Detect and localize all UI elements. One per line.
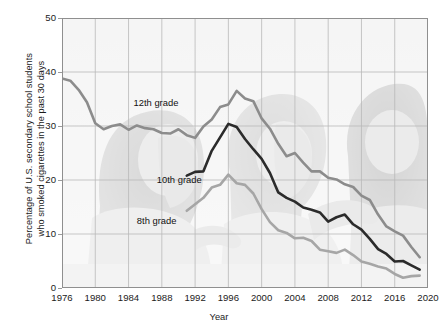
y-tick-label: 30 xyxy=(26,120,56,131)
y-tick-label: 40 xyxy=(26,66,56,77)
x-axis-title: Year xyxy=(0,312,438,322)
y-tick-label: 50 xyxy=(26,12,56,23)
series-label-10th-grade: 10th grade xyxy=(157,174,202,185)
y-tick-mark xyxy=(58,288,62,289)
series-label-12th-grade: 12th grade xyxy=(134,97,179,108)
series-label-8th-grade: 8th grade xyxy=(137,215,177,226)
plot-frame xyxy=(62,18,428,288)
y-tick-label: 20 xyxy=(26,174,56,185)
y-tick-label: 10 xyxy=(26,228,56,239)
x-tick-label: 2020 xyxy=(408,292,443,303)
y-axis-title: Percentage of U.S. secondary school stud… xyxy=(24,9,47,289)
plot-area: 12th grade 10th grade 8th grade xyxy=(62,18,428,288)
